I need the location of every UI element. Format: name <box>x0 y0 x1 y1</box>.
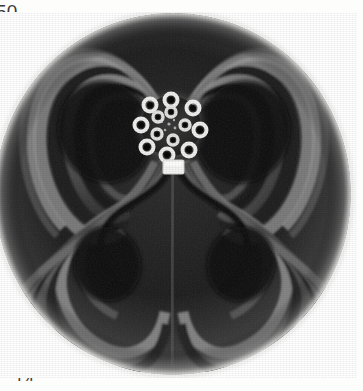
micrograph-figure <box>0 12 357 378</box>
central-annuli-cluster <box>131 86 211 166</box>
disk-rim-highlight <box>0 13 351 375</box>
bright-rectangular-marker <box>163 160 184 174</box>
micrograph-canvas <box>0 12 357 378</box>
scanned-page: 50 n d ed 14 <box>0 0 363 391</box>
